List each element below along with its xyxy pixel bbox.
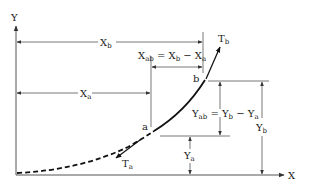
dimension-xa-label: Xa [80, 88, 91, 101]
cable-curve-solid [154, 80, 205, 131]
dimension-ya-label: Ya [183, 150, 195, 163]
tension-tb-label: Tb [218, 33, 230, 46]
dimension-xab-label: Xab = Xb − Xa [138, 50, 206, 63]
x-axis-label: X [288, 170, 296, 181]
tension-arrow-ta [116, 140, 140, 158]
dimension-yb-label: Yb [255, 122, 268, 135]
tension-ta-label: Ta [122, 158, 133, 171]
tension-arrow-tb [206, 47, 220, 79]
cable-curve-dashed [17, 131, 154, 173]
dimension-yab-label: Yab = Yb − Ya [191, 108, 259, 121]
y-axis-label: Y [10, 12, 18, 23]
point-a-label: a [142, 121, 148, 132]
dimension-xb-label: Xb [100, 37, 112, 50]
diagram-canvas: Y X Xb Xab = Xb − Xa Xa Yab = Yb − Ya Yb… [0, 0, 309, 185]
point-b-label: b [193, 73, 199, 84]
